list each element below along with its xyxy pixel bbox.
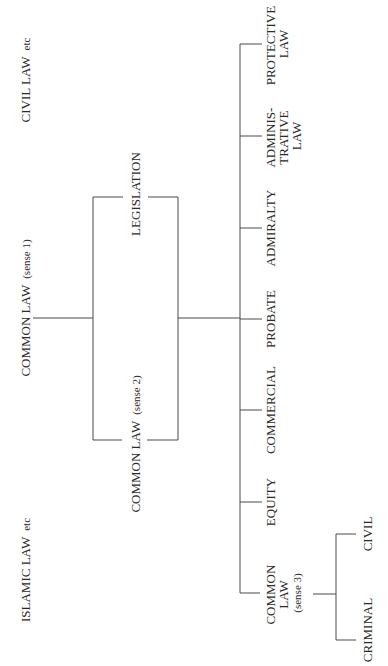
label-administrative-law: ADMINIS- TRATIVE LAW — [263, 104, 304, 167]
connector-lines — [33, 44, 356, 640]
label-common-law-sense3: COMMON LAW (sense 3) — [263, 561, 304, 624]
label-admiralty: ADMIRALTY — [263, 189, 278, 266]
label-civil: CIVIL — [360, 517, 375, 552]
label-commercial: COMMERCIAL — [263, 366, 278, 454]
label-probate: PROBATE — [263, 290, 278, 348]
branch-labels: PROTECTIVE LAW ADMINIS- TRATIVE LAW ADMI… — [263, 3, 304, 625]
label-civil-law: CIVIL LAW etc — [18, 37, 33, 122]
label-islamic-law: ISLAMIC LAW etc — [18, 518, 33, 622]
common-law-tree-diagram: CIVIL LAW etc COMMON LAW (sense 1) ISLAM… — [0, 0, 388, 666]
label-common-law-sense1: COMMON LAW (sense 1) — [18, 239, 33, 377]
label-criminal: CRIMINAL — [360, 598, 375, 662]
top-level-labels: CIVIL LAW etc COMMON LAW (sense 1) ISLAM… — [18, 37, 33, 622]
label-common-law-sense2: COMMON LAW (sense 2) — [128, 375, 143, 513]
sense3-child-labels: CIVIL CRIMINAL — [360, 517, 375, 663]
label-legislation: LEGISLATION — [128, 152, 143, 236]
label-protective-law: PROTECTIVE LAW — [263, 3, 291, 86]
label-equity: EQUITY — [263, 477, 278, 526]
source-labels: LEGISLATION COMMON LAW (sense 2) — [128, 152, 143, 513]
